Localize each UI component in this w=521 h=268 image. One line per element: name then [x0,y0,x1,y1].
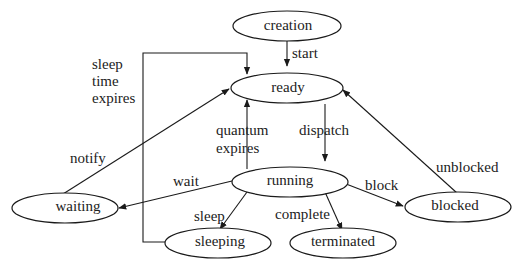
state-diagram: creation ready running waiting sleeping … [0,0,521,268]
label-expires-line3: expires [92,90,135,106]
label-expires: expires [216,140,259,156]
label-quantum: quantum [216,122,269,138]
label-sleep: sleep [194,208,225,224]
node-label: creation [264,17,313,33]
node-label: waiting [56,198,101,214]
label-dispatch: dispatch [299,122,349,138]
node-label: blocked [431,197,479,213]
node-running: running [232,167,348,197]
label-unblocked: unblocked [436,159,499,175]
label-start: start [292,45,319,61]
label-complete: complete [275,206,330,222]
node-label: terminated [311,233,376,249]
label-block: block [365,177,399,193]
edge-unblocked [343,90,457,193]
node-blocked: blocked [405,192,511,222]
node-label: running [267,172,314,188]
label-wait: wait [173,173,200,189]
edge-notify [63,89,229,194]
node-ready: ready [231,73,343,103]
label-time-line2: time [92,73,119,89]
node-terminated: terminated [290,228,396,258]
node-label: ready [271,79,305,95]
node-sleeping: sleeping [165,228,271,258]
label-sleep-line1: sleep [92,56,123,72]
node-waiting: waiting [12,193,118,223]
label-notify: notify [70,150,106,166]
node-creation: creation [233,11,341,41]
node-label: sleeping [195,233,245,249]
